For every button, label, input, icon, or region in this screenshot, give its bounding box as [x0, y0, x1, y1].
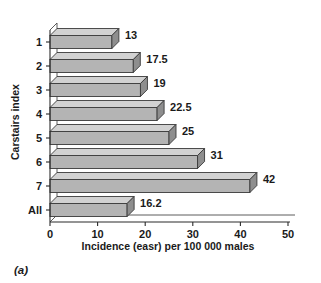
bar-group — [50, 149, 205, 169]
bar-group — [50, 197, 134, 217]
x-axis-tick-label: 10 — [91, 228, 103, 240]
y-axis-tick-label: 7 — [36, 180, 42, 192]
bar-value-label: 42 — [263, 173, 275, 185]
bar-value-label: 22.5 — [170, 101, 191, 113]
bar-group — [50, 53, 140, 73]
bar-front-face — [50, 180, 250, 193]
bar-value-label: 13 — [125, 29, 137, 41]
x-axis-title: Incidence (easr) per 100 000 males — [82, 240, 255, 252]
bar-group — [50, 101, 164, 121]
plot-area: 13117.5219322.5425531642716.2All01020304… — [28, 23, 295, 240]
bar-front-face — [50, 36, 112, 49]
bar-group — [50, 77, 147, 97]
bar-top-face — [50, 77, 147, 84]
bar-front-face — [50, 132, 169, 145]
y-axis-tick-label: 1 — [36, 36, 42, 48]
y-axis-tick-label: 6 — [36, 156, 42, 168]
bar-top-face — [50, 101, 164, 108]
figure-panel: Carstairs index 13117.5219322.5425531642… — [0, 0, 321, 283]
bar-front-face — [50, 204, 127, 217]
x-axis-tick-label: 40 — [234, 228, 246, 240]
x-axis-tick-label: 20 — [139, 228, 151, 240]
y-axis-tick-label: 3 — [36, 84, 42, 96]
bar-group — [50, 173, 257, 193]
bar-group — [50, 29, 119, 49]
bar-chart: Carstairs index 13117.5219322.5425531642… — [0, 0, 321, 283]
y-axis-title: Carstairs index — [9, 84, 21, 160]
bar-top-face — [50, 125, 176, 132]
bar-top-face — [50, 149, 205, 156]
x-axis-tick-label: 30 — [187, 228, 199, 240]
y-axis-tick-label: 5 — [36, 132, 42, 144]
y-axis-tick-label: All — [28, 204, 42, 216]
bar-top-face — [50, 197, 134, 204]
bar-top-face — [50, 29, 119, 36]
bar-top-face — [50, 173, 257, 180]
bar-value-label: 25 — [182, 125, 194, 137]
bar-front-face — [50, 84, 140, 97]
bar-value-label: 16.2 — [140, 197, 161, 209]
x-axis-tick-label: 0 — [47, 228, 53, 240]
y-axis-tick-label: 4 — [36, 108, 43, 120]
bar-value-label: 19 — [153, 77, 165, 89]
bar-front-face — [50, 108, 157, 121]
bar-top-face — [50, 53, 140, 60]
bar-front-face — [50, 156, 198, 169]
bar-value-label: 17.5 — [146, 53, 167, 65]
figure-caption: (a) — [14, 264, 28, 276]
bar-value-label: 31 — [211, 149, 223, 161]
x-axis-tick-label: 50 — [282, 228, 294, 240]
bar-group — [50, 125, 176, 145]
bar-front-face — [50, 60, 133, 73]
y-axis-tick-label: 2 — [36, 60, 42, 72]
